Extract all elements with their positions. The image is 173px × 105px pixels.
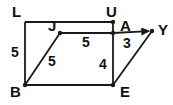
vertex-label-y: Y [158, 22, 168, 37]
vertex-dot-e [111, 83, 115, 87]
measurement-label-ja: 5 [82, 35, 90, 49]
vertex-label-b: B [10, 84, 21, 99]
vertex-label-j: J [48, 18, 56, 33]
vertex-label-a: A [120, 18, 131, 33]
measurement-label-jb: 5 [48, 54, 56, 68]
edge-layer [25, 22, 152, 85]
vertex-dot-a [111, 31, 115, 35]
vertex-label-e: E [120, 84, 130, 99]
vertex-dot-j [58, 31, 62, 35]
measurement-label-ae: 4 [99, 57, 107, 71]
vertex-dot-u [111, 20, 115, 24]
measurement-label-ay: 3 [123, 36, 131, 50]
vertex-dot-y [150, 29, 154, 33]
vertex-label-u: U [106, 4, 117, 19]
measurement-label-lb: 5 [11, 45, 19, 59]
geometry-figure: LUAJYBE 55543 [0, 0, 173, 105]
vertex-label-l: L [12, 4, 21, 19]
vertex-dot-b [23, 83, 27, 87]
figure-canvas [0, 0, 173, 105]
segment-EY [113, 31, 152, 85]
vertex-dot-layer [23, 20, 154, 87]
